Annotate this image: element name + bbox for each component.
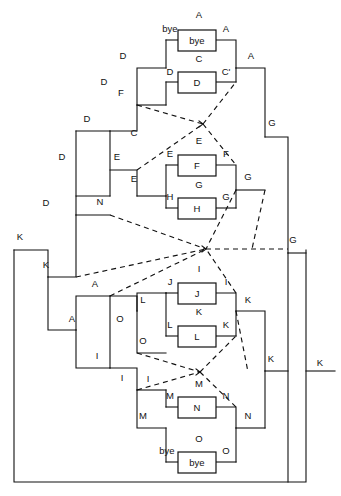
wire-label-w-cprime: C' [222,66,231,77]
wire-label-w-d-1: D [120,50,127,61]
wire-label-w-f-r: F [223,148,229,159]
hub-chevron-hub-center [202,246,206,252]
wire-label-w-k-2: K [43,259,50,270]
dashed-f-to-hub [137,105,203,124]
wire-label-w-k-r3: K [317,357,324,368]
wire-a-to-g-bus [236,68,265,137]
wire-label-w-i-r: I [225,276,228,287]
wire-label-w-o-top: O [195,433,202,444]
wire-label-w-c-top: C [196,53,203,64]
wire-label-w-o-1: O [116,313,123,324]
wire-label-w-a-r1: A [223,23,230,34]
wire-label-w-g-top: G [195,179,202,190]
wire-label-w-a-l2: A [69,313,76,324]
box-label-box-l: L [194,331,199,342]
wire-label-w-i-l1: I [96,350,99,361]
diagram-canvas: byeDFHJLNbyeAbyeAADDCDC'FDDDKKCEEEEFGHGG… [0,0,341,496]
wire-i-riser [76,330,110,368]
dashed-n-to-center-hub [110,215,206,249]
wire-label-w-g-r4: G [289,234,296,245]
wire-label-w-f-1: F [118,87,124,98]
wire-label-w-a-r2: A [248,50,255,61]
wire-label-w-e-boxleft: E [167,148,173,159]
wire-label-w-j-boxleft: J [168,276,173,287]
wire-bye-right [216,40,236,68]
wire-label-w-i-m: I [147,373,150,384]
wire-label-w-m-boxleft: M [166,390,174,401]
box-label-bye-top: bye [189,35,204,46]
wire-label-w-o-2: O [139,335,146,346]
wire-label-w-c-2: C [131,127,138,138]
wire-d-top-a [137,68,166,105]
wire-m-lower [137,390,166,428]
wire-label-w-d-4: D [59,151,66,162]
wire-label-w-n-r1: N [223,390,230,401]
wire-i-branch [110,368,137,390]
wire-label-w-i-l2: I [121,372,124,383]
dashed-k-down-right [236,311,248,372]
wire-label-w-bye-botl: bye [159,445,174,456]
wire-label-w-k-r1: K [245,294,252,305]
wire-label-w-l-boxleft: L [167,319,172,330]
wire-label-w-i-top: I [198,263,201,274]
wire-label-w-m-l: M [139,410,147,421]
wire-label-w-a-top: A [196,9,203,20]
box-label-box-j: J [195,288,200,299]
box-label-box-f: F [194,160,200,171]
wire-k-inner-step [48,215,76,277]
wire-label-w-kprime: K [223,319,230,330]
wire-k-trunk [236,311,265,371]
wire-label-w-m-top: M [195,378,203,389]
box-label-bye-bot: bye [189,457,204,468]
box-label-box-d: D [194,77,201,88]
wire-label-w-g-r2: G [244,171,251,182]
wire-label-w-l-1: L [140,294,145,305]
wire-label-w-d-5: D [43,197,50,208]
wire-label-w-o-r: O [222,445,229,456]
wire-label-w-d-2: D [101,76,108,87]
wire-boxn-right [216,407,236,428]
wire-a-riser [76,296,110,330]
wire-boxj-right [216,293,236,311]
box-label-box-n: N [194,402,201,413]
wire-label-w-bye-left: bye [162,23,177,34]
wire-label-w-e-1: E [114,151,120,162]
wire-o-branch [137,311,166,353]
box-label-box-h: H [194,203,201,214]
wire-label-w-k-1: K [17,231,24,242]
wire-label-w-e-2: E [131,173,137,184]
diagram-svg: byeDFHJLNbyeAbyeAADDCDC'FDDDKKCEEEEFGHGG… [0,0,341,496]
wire-label-w-k-r2: K [268,353,275,364]
wire-label-w-e-top: E [196,135,202,146]
wire-label-w-k-top: K [196,306,203,317]
wire-d5-step [76,196,110,215]
wire-label-w-g-r3: G [268,117,275,128]
wire-j-branch [110,296,137,311]
wire-label-w-a-l1: A [92,278,99,289]
dashed-gright-to-center [252,190,265,249]
wire-g-right-trunk [265,137,288,253]
wire-label-w-d-boxleft: D [167,66,174,77]
wire-boxf-right [216,165,236,190]
dashed-o-to-lower-hub [137,353,200,372]
wire-label-w-n-r2: N [245,410,252,421]
wire-label-w-n-1: N [97,196,104,207]
wire-label-w-g-r1: G [222,191,229,202]
wire-label-w-d-3: D [84,113,91,124]
wire-label-w-h-boxleft: H [167,191,174,202]
dashed-k-to-center-hub [76,249,206,277]
